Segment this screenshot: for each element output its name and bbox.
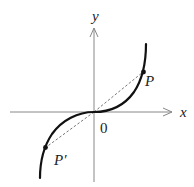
- point-p-prime-label: P′: [53, 152, 67, 168]
- diagram-canvas: y x 0 P P′: [0, 0, 194, 187]
- odd-function-diagram: y x 0 P P′: [0, 0, 194, 187]
- origin-label: 0: [100, 120, 108, 136]
- x-axis-label: x: [179, 104, 187, 120]
- point-p-label: P: [144, 73, 154, 89]
- y-axis-label: y: [90, 8, 99, 24]
- y-axis: [90, 28, 98, 182]
- point-p-prime: [43, 145, 48, 150]
